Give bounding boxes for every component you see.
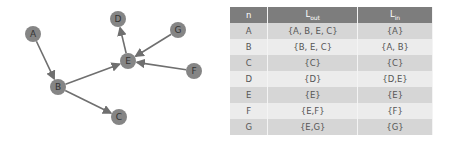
svg-text:D: D xyxy=(115,14,122,24)
svg-text:C: C xyxy=(116,112,122,122)
cell-in: {E} xyxy=(358,87,433,103)
cell-out: {C} xyxy=(268,55,358,71)
cell-n: D xyxy=(230,71,268,87)
node-E: E xyxy=(120,53,136,69)
node-A: A xyxy=(25,26,41,42)
header-n: n xyxy=(230,7,268,23)
cell-out: {E} xyxy=(268,87,358,103)
table-header-row: n Lout Lin xyxy=(230,7,433,23)
edge-B-E xyxy=(65,64,119,84)
node-F: F xyxy=(186,63,202,79)
cell-in: {A} xyxy=(358,23,433,39)
svg-text:B: B xyxy=(55,82,61,92)
cell-in: {F} xyxy=(358,103,433,119)
edge-F-E xyxy=(137,62,186,69)
cell-out: {A, B, E, C} xyxy=(268,23,358,39)
node-G: G xyxy=(170,22,186,38)
cell-out: {D} xyxy=(268,71,358,87)
cell-in: {A, B} xyxy=(358,39,433,55)
edge-G-E xyxy=(136,34,172,56)
svg-text:F: F xyxy=(191,66,196,76)
reachability-table: n Lout Lin A{A, B, E, C}{A}B{B, E, C}{A,… xyxy=(230,7,433,135)
cell-out: {E,F} xyxy=(268,103,358,119)
table-row: G{E,G}{G} xyxy=(230,119,433,135)
svg-text:A: A xyxy=(30,29,37,39)
cell-in: {C} xyxy=(358,55,433,71)
edge-E-D xyxy=(120,28,126,53)
table-row: C{C}{C} xyxy=(230,55,433,71)
table-row: E{E}{E} xyxy=(230,87,433,103)
graph-diagram: ABCDEFG xyxy=(0,0,230,146)
svg-text:E: E xyxy=(125,56,131,66)
table-row: A{A, B, E, C}{A} xyxy=(230,23,433,39)
cell-in: {G} xyxy=(358,119,433,135)
table-row: F{E,F}{F} xyxy=(230,103,433,119)
node-D: D xyxy=(110,11,126,27)
svg-text:G: G xyxy=(175,25,182,35)
cell-n: G xyxy=(230,119,268,135)
cell-n: A xyxy=(230,23,268,39)
node-B: B xyxy=(50,79,66,95)
cell-n: E xyxy=(230,87,268,103)
cell-n: F xyxy=(230,103,268,119)
cell-in: {D,E} xyxy=(358,71,433,87)
cell-out: {B, E, C} xyxy=(268,39,358,55)
header-lout: Lout xyxy=(268,7,358,23)
node-C: C xyxy=(111,109,127,125)
header-lin: Lin xyxy=(358,7,433,23)
table-row: D{D}{D,E} xyxy=(230,71,433,87)
cell-n: B xyxy=(230,39,268,55)
edge-B-C xyxy=(65,91,111,113)
cell-out: {E,G} xyxy=(268,119,358,135)
edge-A-B xyxy=(36,41,54,79)
cell-n: C xyxy=(230,55,268,71)
table-row: B{B, E, C}{A, B} xyxy=(230,39,433,55)
